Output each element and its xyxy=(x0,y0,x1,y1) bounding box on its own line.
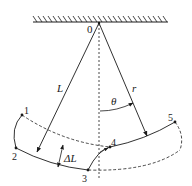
point-3-label: 3 xyxy=(82,173,87,184)
pendulum-diagram: 0 L r θ ΔL 1 2 3 4 5 xyxy=(0,0,192,186)
rod-r xyxy=(99,23,147,136)
point-5-label: 5 xyxy=(168,112,173,123)
direction-arrow-4 xyxy=(100,148,108,152)
rod-L-label: L xyxy=(56,82,63,94)
delta-L-label: ΔL xyxy=(63,152,77,164)
rod-r-label: r xyxy=(132,82,137,94)
theta-arc xyxy=(100,103,133,111)
dashed-right-edge xyxy=(175,122,182,150)
ceiling-hatch xyxy=(33,16,167,22)
trajectory-points xyxy=(15,114,177,172)
point-2-label: 2 xyxy=(12,151,17,162)
point-2 xyxy=(15,147,18,150)
pivot-label: 0 xyxy=(87,23,93,35)
delta-L-arrow xyxy=(58,145,63,167)
rod-L xyxy=(37,23,99,152)
point-4-label: 4 xyxy=(111,137,116,148)
point-3 xyxy=(87,169,90,172)
dashed-arc-upper xyxy=(22,115,110,147)
dashed-arc-lower xyxy=(88,150,180,170)
trajectory-1-2 xyxy=(14,115,22,148)
point-5 xyxy=(174,121,177,124)
trajectory-2-3 xyxy=(16,148,88,170)
trajectory-3-4 xyxy=(88,147,110,170)
point-1 xyxy=(21,114,24,117)
theta-label: θ xyxy=(111,95,117,107)
ceiling xyxy=(33,16,168,22)
point-1-label: 1 xyxy=(24,105,29,116)
